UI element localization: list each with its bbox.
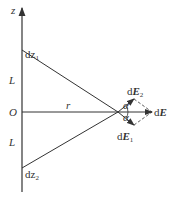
lower-L-label: L bbox=[8, 136, 15, 148]
dashed-parallelogram-bottom bbox=[134, 112, 152, 125]
dE1-label: dE1 bbox=[117, 130, 134, 144]
dz1-label: dz1 bbox=[25, 48, 39, 62]
line-dz2-to-point bbox=[22, 112, 118, 168]
dE-label: dE bbox=[154, 106, 167, 118]
dz2-label: dz2 bbox=[25, 168, 39, 182]
origin-label: O bbox=[9, 106, 17, 118]
r-label: r bbox=[66, 99, 71, 111]
z-axis-label: z bbox=[10, 4, 16, 16]
upper-L-label: L bbox=[8, 74, 15, 86]
angle-lower-label: α bbox=[123, 111, 129, 123]
dashed-parallelogram-top bbox=[134, 99, 152, 112]
angle-upper-label: α bbox=[123, 99, 129, 111]
field-diagram: z dz1 L O r L dz2 α α dE2 dE dE1 bbox=[0, 0, 172, 202]
dE2-label: dE2 bbox=[127, 85, 144, 99]
